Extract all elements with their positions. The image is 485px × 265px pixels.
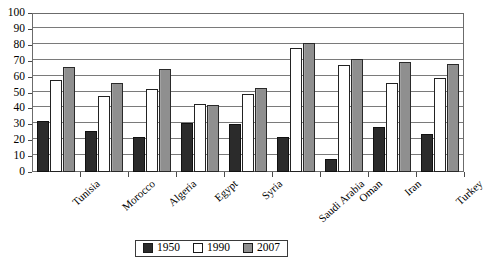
bar [133,137,145,172]
x-tick-mark [80,172,81,177]
bar-group [416,13,464,172]
bar [290,48,302,172]
y-tick-label: 80 [14,39,26,51]
bar [255,88,267,172]
bar [338,65,350,172]
y-tick-label: 100 [8,7,25,19]
bar [447,64,459,172]
legend-swatch-icon [193,243,203,253]
legend-label: 1990 [207,242,230,254]
x-category-label: Iran [402,178,423,198]
bar [373,127,385,172]
bar [159,69,171,172]
bar [146,89,158,172]
legend-swatch-icon [143,243,153,253]
bar [181,123,193,172]
y-tick-label: 30 [14,118,26,130]
x-category-label: Egypt [213,178,240,204]
bar [111,83,123,172]
x-axis-labels: TunisiaMoroccoAlgeriaEgyptSyriaSaudi Ara… [0,172,471,227]
y-tick-label: 10 [14,150,26,162]
bar [207,105,219,172]
bar [277,137,289,172]
x-category-label: Saudi Arabia [316,178,366,224]
bar [85,131,97,172]
bar [37,121,49,172]
legend-label: 1950 [157,242,180,254]
bar-group [176,13,224,172]
bar [50,80,62,172]
bar [386,83,398,172]
bar [303,43,315,172]
bar [351,59,363,172]
x-category-label: Algeria [166,178,198,208]
bar [242,94,254,172]
x-category-label: Syria [260,178,285,202]
legend-label: 2007 [257,242,280,254]
legend-item: 1950 [143,242,180,254]
x-tick-mark [272,172,273,177]
x-tick-mark [464,172,465,177]
bar-group [32,13,80,172]
bar-group [80,13,128,172]
x-tick-mark [368,172,369,177]
y-tick-label: 90 [14,23,26,35]
bar-group [320,13,368,172]
x-tick-mark [416,172,417,177]
y-tick-label: 50 [14,87,26,99]
x-tick-mark [224,172,225,177]
bar-group [128,13,176,172]
bar [63,67,75,172]
x-category-label: Tunisia [70,178,102,208]
legend-swatch-icon [243,243,253,253]
bar [194,104,206,172]
bar [434,78,446,172]
bars-layer [32,13,464,172]
x-tick-mark [128,172,129,177]
bar [421,134,433,172]
y-tick-label: 70 [14,55,26,67]
bar [98,96,110,172]
chart-legend: 195019902007 [135,240,288,257]
bar-group [272,13,320,172]
bar-group [224,13,272,172]
x-category-label: Morocco [120,178,157,213]
y-tick-label: 60 [14,71,26,83]
legend-item: 1990 [193,242,230,254]
bar-group [368,13,416,172]
y-tick-label: 20 [14,134,26,146]
bar [399,62,411,172]
y-tick-label: 40 [14,102,26,114]
bar [229,124,241,172]
x-tick-mark [176,172,177,177]
x-category-label: Turkey [454,178,485,207]
bar [325,159,337,172]
legend-item: 2007 [243,242,280,254]
x-tick-mark [320,172,321,177]
